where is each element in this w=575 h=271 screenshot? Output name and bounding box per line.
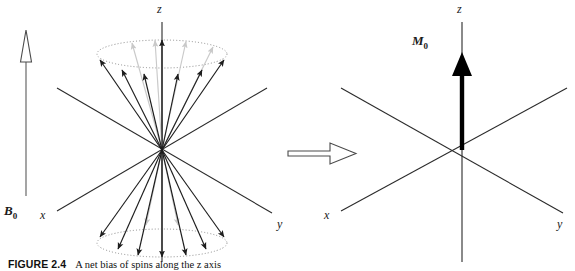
m0-vector — [452, 52, 472, 150]
b0-label: B0 — [4, 204, 17, 221]
right-axis-label-y: y — [557, 218, 562, 230]
m0-label: M0 — [412, 34, 428, 51]
right-axis-label-x: x — [324, 209, 329, 221]
left-axis-label-y: y — [277, 218, 282, 230]
right-panel-graphic — [0, 0, 575, 271]
right-axis-x — [341, 88, 567, 211]
figure-caption: FIGURE 2.4A net bias of spins along the … — [8, 259, 221, 271]
figure-caption-id: FIGURE 2.4 — [8, 258, 66, 270]
right-axis-y — [341, 88, 563, 213]
left-axis-label-z: z — [157, 3, 162, 15]
right-axis-label-z: z — [457, 3, 462, 15]
left-axis-label-x: x — [40, 209, 45, 221]
figure-caption-text: A net bias of spins along the z axis — [66, 259, 221, 270]
figure-canvas: B0 z x y M0 z x y FIGURE 2.4A net bias o… — [0, 0, 575, 271]
